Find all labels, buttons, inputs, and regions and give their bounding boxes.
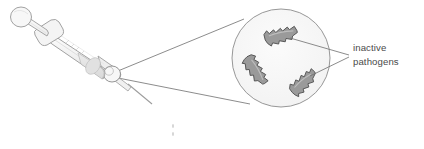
syringe-thumb-pad [11,7,32,27]
droplet-marks [172,124,174,136]
callout-label: inactive pathogens [353,41,423,68]
thumb-pad-disc [11,7,32,27]
droplet-mark-1 [172,124,174,128]
callout-line-upper [113,19,244,73]
syringe [11,7,153,104]
callout-label-line-1: inactive [353,41,423,55]
callout-line-lower [113,77,250,104]
callout-label-line-2: pathogens [353,55,423,69]
callout-cone [113,19,250,104]
syringe-liquid-chamber [78,53,104,79]
diagram-canvas [0,0,424,149]
vaccine-syringe-diagram: inactive pathogens [0,0,424,149]
needle-shaft [128,84,152,104]
droplet-mark-2 [172,132,174,136]
